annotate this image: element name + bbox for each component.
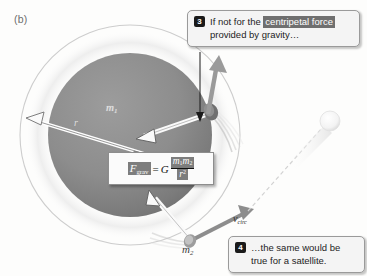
formula-numerator: m1m2 — [171, 157, 195, 168]
formula-constant: G — [161, 163, 169, 175]
callout-3[interactable]: 3 If not for the centripetal force provi… — [187, 10, 360, 47]
satellite-object — [288, 111, 340, 169]
callout-4[interactable]: 4 …the same would be true for a satellit… — [228, 236, 365, 273]
panel-label: (b) — [14, 13, 27, 25]
callout-3-highlight: centripetal force — [263, 16, 335, 28]
formula-equals: = — [153, 163, 159, 175]
callout-3-badge: 3 — [194, 16, 205, 27]
callout-4-badge: 4 — [235, 242, 246, 253]
formula-num-m2-sub: 2 — [189, 161, 192, 167]
callout-3-text-before: If not for the — [210, 16, 263, 27]
formula-denominator: r2 — [177, 169, 188, 180]
gravitation-formula-box: Fgrav = G m1m2 r2 — [108, 152, 214, 185]
formula-lhs-subscript: grav — [136, 168, 148, 175]
physics-figure-panel-b: (b) 3 If not for the centripetal force p… — [0, 0, 367, 276]
callout-3-text-after: provided by gravity… — [210, 29, 299, 40]
formula-fraction: m1m2 r2 — [171, 157, 195, 180]
primary-mass-sphere — [48, 53, 212, 217]
callout-3-text: If not for the centripetal force provide… — [210, 15, 335, 41]
formula-lhs: Fgrav — [128, 162, 151, 175]
formula-den-exp: 2 — [183, 170, 186, 176]
formula-num-m1: m — [173, 156, 180, 166]
satellite-motion-streaks — [150, 233, 189, 248]
callout-4-text: …the same would be true for a satellite. — [251, 241, 357, 267]
